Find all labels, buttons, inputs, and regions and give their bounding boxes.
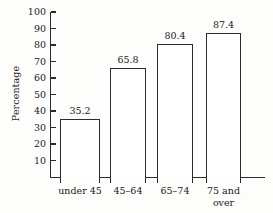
y-axis-tick-label-wrap: 10	[18, 156, 46, 166]
x-axis-category-label: 75 and over	[192, 185, 256, 208]
y-axis-tick-label: 40	[20, 106, 46, 116]
y-axis-tick	[51, 94, 56, 95]
y-axis-tick-label: 100	[20, 7, 46, 17]
y-axis-tick-label-wrap: 50	[18, 90, 46, 100]
bar-baseline-stem	[192, 177, 193, 183]
bar-value-label: 80.4	[150, 31, 200, 41]
y-axis-tick	[51, 160, 56, 161]
y-axis-tick-label-wrap: 20	[18, 139, 46, 149]
bar-baseline-stem	[240, 177, 241, 183]
bar	[206, 33, 241, 178]
y-axis-tick-label: 70	[20, 57, 46, 67]
bar	[60, 119, 100, 178]
y-axis-tick-label-wrap: 70	[18, 57, 46, 67]
bar-baseline-stem	[60, 177, 61, 183]
y-axis-tick-label-wrap: 30	[18, 123, 46, 133]
y-axis-tick-label-wrap: 100	[18, 7, 46, 17]
y-axis-tick-label-wrap: 40	[18, 106, 46, 116]
y-axis-tick	[51, 127, 56, 128]
y-axis-tick	[51, 11, 56, 12]
y-axis-tick-label: 60	[20, 73, 46, 83]
y-axis-tick-label: 50	[20, 90, 46, 100]
bar	[157, 44, 193, 178]
y-axis-tick	[51, 28, 56, 29]
bar-baseline-stem	[145, 177, 146, 183]
bar-baseline-stem	[206, 177, 207, 183]
y-axis-tick	[51, 44, 56, 45]
y-axis-tick-label-wrap: 90	[18, 24, 46, 34]
bar-value-label: 65.8	[103, 55, 153, 65]
y-axis-tick-label: 10	[20, 156, 46, 166]
y-axis-tick-label: 90	[20, 24, 46, 34]
y-axis-tick	[51, 61, 56, 62]
y-axis-tick-label: 80	[20, 40, 46, 50]
bar-chart: Percentage 102030405060708090100 35.265.…	[0, 0, 273, 213]
bar-baseline-stem	[110, 177, 111, 183]
bar-value-label: 87.4	[199, 20, 249, 30]
y-axis-tick-label-wrap: 60	[18, 73, 46, 83]
y-axis-tick	[51, 143, 56, 144]
y-axis-tick-label-wrap: 80	[18, 40, 46, 50]
bar-baseline-stem	[99, 177, 100, 183]
y-axis-tick-label: 20	[20, 139, 46, 149]
bar-baseline-stem	[157, 177, 158, 183]
y-axis-tick	[51, 77, 56, 78]
y-axis-tick-label: 30	[20, 123, 46, 133]
bar	[110, 68, 146, 178]
bar-value-label: 35.2	[55, 106, 105, 116]
